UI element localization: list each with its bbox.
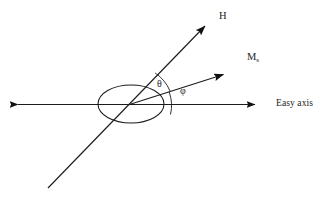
phi-arc [169,92,171,115]
field-vector-label: H [219,11,227,22]
easy-axis-label: Easy axis [276,99,313,109]
field-vector-line [48,26,205,188]
caption-strip [0,193,330,202]
magnetization-symbol: M [247,51,256,62]
angle-phi-label: φ [180,86,186,96]
magnetization-vector-line [131,75,224,105]
figure-container: H Ms θ φ Easy axis [0,0,330,202]
magnetization-subscript: s [256,56,259,64]
angle-theta-label: θ [157,79,162,89]
magnetization-vector-label: Ms [247,52,259,64]
